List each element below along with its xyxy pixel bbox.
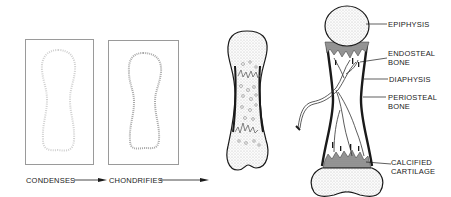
diaphysis-label: DIAPHYSIS: [389, 75, 431, 84]
condenses-label: CONDENSES: [26, 176, 75, 185]
mesenchyme-outline: [42, 50, 75, 151]
developing-long-bone: [296, 6, 383, 197]
diagram-graphics: [0, 0, 451, 197]
epiphysis-label: EPIPHYSIS: [388, 20, 429, 29]
calcified-label-2: CARTILAGE: [391, 167, 435, 176]
diagram-canvas: CONDENSES CHONDRIFIES EPIPHYSIS ENDOSTEA…: [0, 0, 451, 197]
periosteal-label-2: BONE: [388, 102, 410, 111]
endosteal-label-2: BONE: [388, 58, 410, 67]
chondrifies-label: CHONDRIFIES: [109, 176, 163, 185]
primary-ossification-bone: [227, 31, 268, 170]
calcified-label-1: CALCIFIED: [391, 158, 432, 167]
periosteal-label-1: PERIOSTEAL: [388, 93, 437, 102]
cartilage-model-outline: [129, 53, 161, 149]
endosteal-label-1: ENDOSTEAL: [388, 49, 435, 58]
